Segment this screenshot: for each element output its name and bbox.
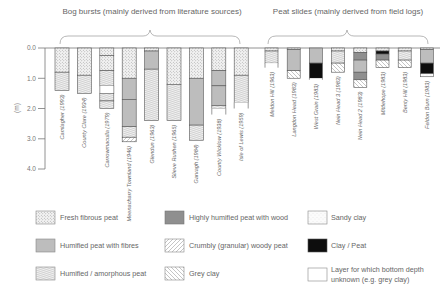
layer-fresh bbox=[234, 48, 248, 75]
legend-item-claypeat: Clay / Peat bbox=[308, 239, 366, 252]
column-bog-1 bbox=[77, 48, 91, 93]
layer-amorph bbox=[77, 75, 91, 93]
column-bog-6 bbox=[189, 48, 203, 140]
layer-claypeat bbox=[376, 51, 389, 54]
layer-fresh bbox=[189, 48, 203, 78]
layer-humfib bbox=[287, 50, 300, 71]
tick-4: 4.0 bbox=[27, 165, 36, 172]
legend-item-sandy: Sandy clay bbox=[308, 211, 367, 224]
legend-label: Clay / Peat bbox=[331, 241, 366, 250]
layer-humfib bbox=[420, 50, 433, 64]
layer-unknown bbox=[100, 86, 114, 94]
layer-unknown bbox=[234, 102, 248, 108]
legend-item-fresh: Fresh fibrous peat bbox=[36, 211, 118, 224]
column-label: County Wicklow (1938) bbox=[216, 118, 222, 176]
layer-wood bbox=[376, 54, 389, 60]
layer-humfib bbox=[145, 51, 159, 69]
layer-fresh bbox=[100, 48, 114, 56]
layer-amorph bbox=[212, 105, 226, 108]
layer-fresh bbox=[212, 48, 226, 71]
column-slide-0 bbox=[265, 48, 278, 68]
layer-fresh bbox=[55, 48, 69, 72]
unknown-depth-swatch-icon bbox=[308, 268, 327, 281]
bog-bursts-title: Bog bursts (mainly derived from literatu… bbox=[62, 7, 242, 16]
humified-wood-swatch-icon bbox=[165, 211, 184, 224]
layer-amorph bbox=[265, 51, 278, 63]
sandy-clay-swatch-icon bbox=[308, 211, 327, 224]
column-slide-6 bbox=[398, 48, 411, 68]
layer-crumbly bbox=[122, 137, 136, 142]
fresh-peat-swatch-icon bbox=[36, 211, 55, 224]
layer-greyclay bbox=[376, 60, 389, 68]
peat-slides-title: Peat slides (mainly derived from field l… bbox=[273, 7, 424, 16]
legend-label: Highly humified peat with wood bbox=[189, 213, 288, 222]
peat-slides-brace bbox=[268, 30, 428, 44]
layer-unknown bbox=[212, 109, 226, 115]
column-slide-4 bbox=[354, 48, 367, 87]
y-axis-label: (m) bbox=[13, 103, 21, 113]
layer-claypeat bbox=[420, 63, 433, 74]
legend-item-unknown: Layer for which bottom depth unknown (e.… bbox=[308, 265, 424, 284]
legend-item-humfib: Humified peat with fibres bbox=[36, 239, 139, 252]
column-label: Meenacharry Townland (1946) bbox=[126, 146, 132, 222]
column-label: Mittlehope (1983) bbox=[380, 72, 386, 116]
legend-label: Humified / amorphous peat bbox=[60, 269, 146, 278]
layer-amorph bbox=[100, 93, 114, 101]
column-label: Carrowmaculla (1979) bbox=[104, 112, 110, 167]
layer-amorph bbox=[332, 51, 345, 63]
stratigraphic-columns bbox=[55, 48, 433, 142]
layer-fresh bbox=[145, 48, 159, 51]
stratigraphy-diagram: Bog bursts (mainly derived from literatu… bbox=[0, 0, 442, 295]
legend-item-wood: Highly humified peat with wood bbox=[165, 211, 288, 224]
tick-3: 3.0 bbox=[27, 135, 36, 142]
layer-amorph bbox=[122, 127, 136, 138]
tick-1: 1.0 bbox=[27, 75, 36, 82]
layer-sandy bbox=[420, 74, 433, 77]
layer-humfib bbox=[189, 78, 203, 125]
legend-label: Grey clay bbox=[189, 269, 220, 278]
column-label: Nein Head 2 (1983) bbox=[357, 91, 363, 140]
layer-greyclay bbox=[287, 71, 300, 79]
column-label: Slieve Rushen (1965) bbox=[171, 124, 177, 178]
crumbly-peat-swatch-icon bbox=[165, 239, 184, 252]
column-slide-5 bbox=[376, 48, 389, 68]
layer-fresh bbox=[167, 48, 181, 84]
column-bog-0 bbox=[55, 48, 69, 90]
amorphous-peat-swatch-icon bbox=[36, 267, 55, 280]
layer-amorph bbox=[145, 69, 159, 120]
column-slide-2 bbox=[309, 48, 322, 80]
layer-fresh bbox=[332, 48, 345, 51]
column-bog-2 bbox=[100, 48, 114, 109]
legend-label: Fresh fibrous peat bbox=[60, 213, 118, 222]
layer-amorph bbox=[398, 51, 411, 60]
layer-fresh bbox=[376, 48, 389, 51]
layer-amorph bbox=[55, 72, 69, 90]
legend-label: Layer for which bottom depth bbox=[331, 265, 424, 274]
column-bog-5 bbox=[167, 48, 181, 121]
layer-amorph bbox=[100, 101, 114, 109]
layer-amorph bbox=[100, 71, 114, 86]
layer-greyclay bbox=[354, 80, 367, 88]
layer-fresh bbox=[122, 48, 136, 78]
layer-fresh bbox=[398, 48, 411, 51]
legend-item-crumbly: Crumbly (granular) woody peat bbox=[165, 239, 288, 252]
column-label: County Clare (1934) bbox=[81, 97, 87, 148]
layer-amorph bbox=[189, 125, 203, 140]
layer-humfib bbox=[309, 48, 322, 63]
grey-clay-swatch-icon bbox=[165, 267, 184, 280]
layer-greyclay bbox=[398, 60, 411, 68]
column-bog-4 bbox=[145, 48, 159, 121]
column-label: Langdon Head (1983) bbox=[291, 82, 297, 137]
layer-fresh bbox=[100, 56, 114, 71]
column-label: Garvagh (1984) bbox=[193, 144, 199, 183]
layer-amorph bbox=[234, 75, 248, 102]
column-bog-8 bbox=[234, 48, 248, 109]
column-label: Benty Hill (1983) bbox=[402, 72, 408, 113]
layer-humfib bbox=[212, 86, 226, 106]
layer-greyclay bbox=[332, 63, 345, 72]
legend-label: Crumbly (granular) woody peat bbox=[189, 241, 288, 250]
layer-amorph bbox=[167, 84, 181, 120]
legend-item-greyclay: Grey clay bbox=[165, 267, 220, 280]
tick-2: 2.0 bbox=[27, 105, 36, 112]
column-label: Meldon Hill (1963) bbox=[269, 72, 275, 118]
